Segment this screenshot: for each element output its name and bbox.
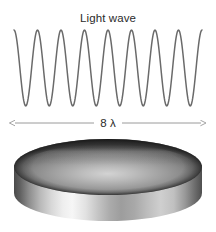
- light-wave-figure: Light wave 8 λ: [0, 0, 216, 232]
- wavelength-count-label: 8 λ: [0, 115, 216, 131]
- dimension-annotation: 8 λ: [0, 112, 216, 136]
- disk-far-edge-shadow: [17, 139, 199, 165]
- light-wave-graphic: [0, 26, 216, 110]
- metallic-disk: [14, 139, 202, 227]
- wavelength-count-text: 8 λ: [94, 117, 121, 129]
- sine-wave-path: [14, 30, 202, 106]
- page-title: Light wave: [0, 11, 216, 25]
